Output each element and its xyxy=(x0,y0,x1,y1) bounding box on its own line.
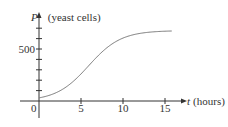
origin-label: 0 xyxy=(31,102,37,114)
logistic-growth-chart: 0 51015 500 P(yeast cells) t(hours) xyxy=(0,0,228,127)
x-tick-label: 15 xyxy=(160,102,172,114)
x-axis-unit: (hours) xyxy=(193,95,225,108)
population-curve xyxy=(39,31,172,98)
x-tick-label: 10 xyxy=(118,102,130,114)
x-tick-label: 5 xyxy=(78,102,84,114)
y-tick-labels: 500 xyxy=(19,43,36,55)
x-tick-labels: 51015 xyxy=(78,102,171,114)
y-axis-variable: P xyxy=(30,11,38,23)
y-tick-label: 500 xyxy=(19,43,36,55)
y-axis-unit: (yeast cells) xyxy=(48,11,101,24)
x-axis-label: t(hours) xyxy=(187,95,225,108)
x-axis-variable: t xyxy=(187,95,191,107)
